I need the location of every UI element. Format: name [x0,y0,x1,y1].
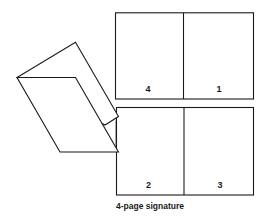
page-number-1: 1 [216,84,221,94]
folded-sheet [17,42,119,152]
bottom-sheet-outline [117,108,254,196]
page-number-3: 3 [217,180,222,190]
top-sheet: 4 1 [116,13,254,99]
page-number-4: 4 [145,84,150,94]
diagram-caption: 4-page signature [116,201,184,211]
top-sheet-outline [116,13,254,99]
page-number-2: 2 [146,180,151,190]
signature-diagram: 4 1 2 3 [0,0,270,222]
bottom-sheet: 2 3 [117,108,254,196]
